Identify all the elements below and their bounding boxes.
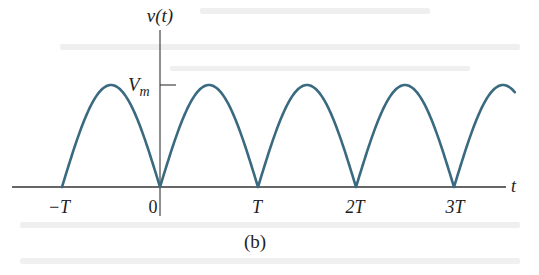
x-axis-label: t (511, 176, 517, 196)
page-bleed-through (20, 8, 520, 264)
plot-canvas: v(t) Vm t −T 0 T 2T 3T (b) (0, 0, 539, 275)
x-tick-labels: −T 0 T 2T 3T (48, 197, 467, 217)
tick-label-minus-t: −T (48, 197, 72, 217)
amplitude-label: Vm (128, 74, 150, 99)
tick-label-t: T (252, 197, 264, 217)
rectified-sine-curve (62, 85, 515, 187)
full-wave-rectified-sine-figure: v(t) Vm t −T 0 T 2T 3T (b) (0, 0, 539, 275)
y-axis-label: v(t) (147, 5, 173, 27)
tick-label-zero: 0 (149, 197, 158, 217)
figure-caption: (b) (244, 231, 266, 253)
tick-label-2t: 2T (345, 197, 366, 217)
tick-label-3t: 3T (444, 197, 466, 217)
